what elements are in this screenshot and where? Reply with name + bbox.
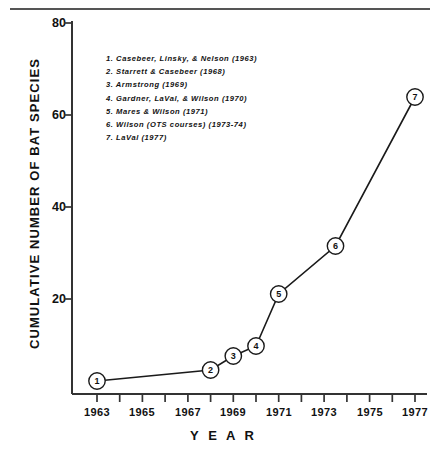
x-ticks: [97, 394, 415, 402]
marker-label: 4: [253, 341, 258, 351]
data-point-marker[interactable]: 2: [202, 362, 218, 378]
chart-figure: CUMULATIVE NUMBER OF BAT SPECIES Y E A R…: [0, 0, 447, 454]
marker-label: 7: [412, 92, 417, 102]
marker-label: 2: [208, 365, 213, 375]
marker-label: 6: [333, 241, 338, 251]
y-ticks: [64, 23, 72, 299]
marker-label: 5: [276, 289, 281, 299]
data-point-marker[interactable]: 3: [225, 348, 241, 364]
plot-svg: 1 2 3 4 5 6 7: [0, 0, 447, 454]
data-point-marker[interactable]: 1: [89, 373, 105, 389]
marker-label: 3: [231, 351, 236, 361]
data-point-marker[interactable]: 5: [271, 286, 287, 302]
marker-label: 1: [94, 376, 99, 386]
data-point-marker[interactable]: 6: [327, 238, 343, 254]
data-point-marker[interactable]: 7: [407, 89, 423, 105]
data-point-marker[interactable]: 4: [248, 338, 264, 354]
